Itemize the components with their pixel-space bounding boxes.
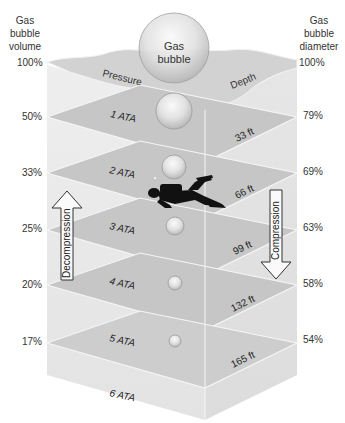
bubble-label-line2: bubble [157, 53, 190, 65]
volume-header-line: bubble [4, 27, 46, 40]
diameter-value: 100% [299, 57, 325, 68]
diameter-header-line: Gas [294, 14, 344, 27]
decompression-label: Decompression [61, 209, 72, 278]
diameter-header-line: diameter [294, 40, 344, 53]
gas-bubble-1-ata [156, 93, 192, 129]
volume-value: 17% [22, 336, 42, 347]
bubble-label-line1: Gas [164, 40, 185, 52]
boyles-law-diagram: Decompression Compression Pressure Depth… [0, 0, 345, 423]
volume-value: 25% [22, 223, 42, 234]
gas-bubble-4-ata [168, 276, 182, 290]
volume-value: 33% [22, 167, 42, 178]
volume-header-line: volume [4, 40, 46, 53]
compression-label: Compression [270, 201, 281, 260]
diagram-canvas: Decompression Compression Pressure Depth… [0, 0, 345, 423]
volume-header: Gas bubble volume [4, 14, 46, 53]
diameter-header: Gas bubble diameter [294, 14, 344, 53]
gas-bubble-5-ata [169, 335, 181, 347]
diameter-value: 58% [303, 278, 323, 289]
volume-header-line: Gas [4, 14, 46, 27]
volume-value: 50% [22, 111, 42, 122]
gas-bubble-2-ata [162, 155, 186, 179]
diameter-value: 69% [303, 166, 323, 177]
gas-bubble-3-ata [166, 217, 184, 235]
diameter-header-line: bubble [294, 27, 344, 40]
diameter-value: 79% [303, 110, 323, 121]
diameter-value: 54% [303, 334, 323, 345]
volume-value: 100% [17, 57, 43, 68]
diameter-value: 63% [303, 222, 323, 233]
volume-value: 20% [22, 279, 42, 290]
